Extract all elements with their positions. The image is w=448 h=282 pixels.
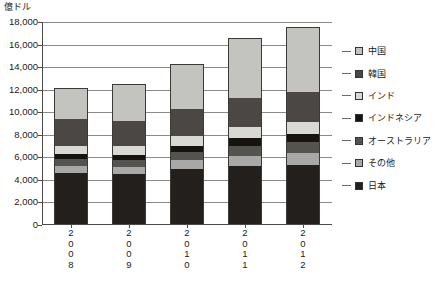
x-axis-tick-label: 2009 [112, 228, 146, 270]
y-axis-tick-label: 2,000 [14, 197, 38, 207]
legend-item-インド[interactable]: インド [355, 85, 447, 107]
y-axis-tick-label: 16,000 [9, 40, 38, 50]
legend-label: 韓国 [368, 69, 386, 79]
legend-swatch [355, 137, 363, 145]
x-axis-tick-label-char: 2 [228, 228, 262, 239]
x-axis-tick-label-char: 0 [170, 260, 204, 271]
legend-item-インドネシア[interactable]: インドネシア [355, 107, 447, 129]
stacked-bar-chart: 億ドル 02,0004,0006,0008,00010,00012,00014,… [0, 0, 448, 282]
x-axis-tick-label: 2011 [228, 228, 262, 270]
x-axis-tick-labels: 20082009201020112012 [42, 228, 332, 282]
y-axis-tick-label: 4,000 [14, 175, 38, 185]
x-axis-tick-label-char: 2 [170, 228, 204, 239]
legend-label: 日本 [368, 181, 386, 191]
legend-label: その他 [368, 158, 395, 168]
x-axis-tick-label-char: 1 [286, 249, 320, 260]
legend-label: オーストラリア [368, 136, 431, 146]
legend-label: インド [368, 91, 395, 101]
x-axis-tick-label: 2010 [170, 228, 204, 270]
legend-item-オーストラリア[interactable]: オーストラリア [355, 130, 447, 152]
legend-label: インドネシア [368, 113, 422, 123]
legend-label: 中国 [368, 46, 386, 56]
x-axis-tick-label: 2012 [286, 228, 320, 270]
legend-swatch [355, 182, 363, 190]
y-axis-tick-label: 14,000 [9, 62, 38, 72]
x-axis-tick-label-char: 9 [112, 260, 146, 271]
y-axis-unit-label: 億ドル [4, 2, 31, 13]
x-axis-tick-label-char: 2 [286, 260, 320, 271]
legend-leader-line [342, 140, 351, 141]
x-axis-tick-label-char: 1 [228, 260, 262, 271]
y-axis-tick-labels: 02,0004,0006,0008,00010,00012,00014,0001… [0, 22, 38, 225]
y-axis-tick-label: 10,000 [9, 107, 38, 117]
x-axis-tick-label-char: 8 [54, 260, 88, 271]
x-axis-tick-label-char: 0 [112, 249, 146, 260]
x-axis-tick-label-char: 0 [54, 249, 88, 260]
legend-leader-line [342, 51, 351, 52]
x-axis-tick-label: 2008 [54, 228, 88, 270]
x-axis-tick-label-char: 2 [54, 228, 88, 239]
plot-area [42, 22, 332, 225]
y-axis-tick-label: 6,000 [14, 152, 38, 162]
x-axis-tick-label-char: 1 [170, 249, 204, 260]
y-axis-tick-mark [38, 225, 42, 226]
legend-swatch [355, 114, 363, 122]
legend-swatch [355, 159, 363, 167]
x-axis-tick-label-char: 2 [286, 228, 320, 239]
chart-legend: 中国韓国インドインドネシアオーストラリアその他日本 [355, 40, 447, 197]
legend-item-韓国[interactable]: 韓国 [355, 62, 447, 84]
legend-swatch [355, 70, 363, 78]
x-axis-tick-label-char: 1 [228, 249, 262, 260]
y-axis-tick-label: 12,000 [9, 85, 38, 95]
y-axis-tick-label: 8,000 [14, 130, 38, 140]
legend-leader-line [342, 185, 351, 186]
x-axis-tick-label-char: 2 [112, 228, 146, 239]
legend-leader-line [342, 95, 351, 96]
legend-item-その他[interactable]: その他 [355, 152, 447, 174]
legend-item-日本[interactable]: 日本 [355, 174, 447, 196]
legend-swatch [355, 92, 363, 100]
y-axis-tick-label: 18,000 [9, 17, 38, 27]
plot-frame [42, 22, 332, 225]
legend-leader-line [342, 163, 351, 164]
legend-leader-line [342, 118, 351, 119]
legend-leader-line [342, 73, 351, 74]
legend-item-中国[interactable]: 中国 [355, 40, 447, 62]
legend-swatch [355, 47, 363, 55]
